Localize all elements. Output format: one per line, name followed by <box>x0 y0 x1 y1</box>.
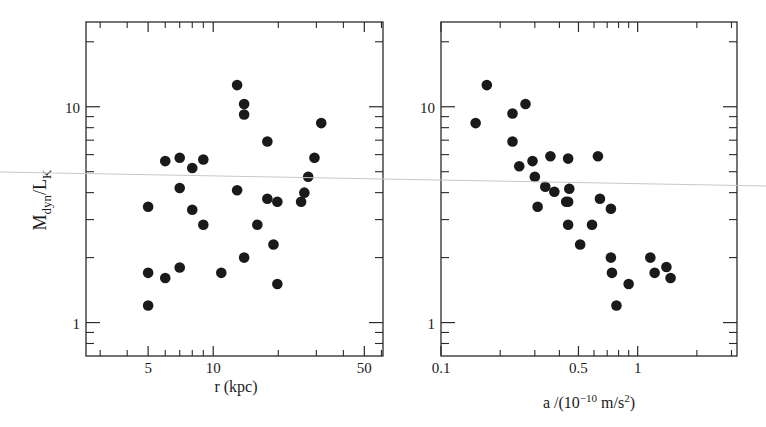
plot-frame <box>441 22 737 356</box>
data-point <box>587 219 598 230</box>
data-point <box>606 252 617 263</box>
data-point <box>216 268 227 279</box>
data-point <box>507 108 518 119</box>
data-point <box>645 252 656 263</box>
y-tick-label: 10 <box>420 100 435 116</box>
data-point <box>262 193 273 204</box>
data-point <box>575 239 586 250</box>
data-point <box>239 109 250 120</box>
y-axis-label: Mdyn/LK <box>30 169 54 231</box>
data-point <box>232 185 243 196</box>
x-tick-label: 0.5 <box>569 360 588 376</box>
data-point <box>232 80 243 91</box>
data-point <box>649 268 660 279</box>
data-point <box>520 99 531 110</box>
data-point <box>160 273 171 284</box>
data-point <box>532 201 543 212</box>
data-point <box>198 219 209 230</box>
data-point <box>198 154 209 165</box>
data-point <box>262 136 273 147</box>
data-point <box>540 181 551 192</box>
data-point <box>252 219 263 230</box>
data-point <box>564 183 575 194</box>
data-point <box>545 151 556 162</box>
data-point <box>309 153 320 164</box>
data-point <box>606 203 617 214</box>
data-point <box>661 262 672 273</box>
figure: 51050110 0.10.51110 Mdyn/LK r (kpc) a /(… <box>0 0 766 427</box>
x-tick-label: 0.1 <box>432 360 451 376</box>
data-point <box>272 279 283 290</box>
x-tick-label: 10 <box>206 360 221 376</box>
data-point <box>303 171 314 182</box>
x-axis-label-left: r (kpc) <box>214 378 257 396</box>
data-point <box>530 171 541 182</box>
data-point <box>527 156 538 167</box>
data-point <box>514 161 525 172</box>
data-point <box>160 156 171 167</box>
data-point <box>507 136 518 147</box>
data-point <box>272 196 283 207</box>
data-point <box>174 183 185 194</box>
data-point <box>595 193 606 204</box>
data-point <box>563 219 574 230</box>
data-point <box>143 300 154 311</box>
data-point <box>623 279 634 290</box>
data-point <box>563 196 574 207</box>
left-panel-r-vs-ml: 51050110 <box>65 22 383 376</box>
data-point <box>143 268 154 279</box>
data-point <box>187 163 198 174</box>
right-panel-a-vs-ml: 0.10.51110 <box>420 22 737 376</box>
data-point <box>593 151 604 162</box>
x-axis-label-right: a /(10−10 m/s2) <box>543 392 635 412</box>
data-point <box>470 118 481 129</box>
data-point <box>665 273 676 284</box>
data-point <box>549 186 560 197</box>
data-point <box>239 99 250 110</box>
x-tick-label: 1 <box>634 360 642 376</box>
data-point <box>268 239 279 250</box>
x-tick-label: 5 <box>144 360 152 376</box>
data-point <box>563 153 574 164</box>
data-point <box>607 268 618 279</box>
data-point <box>316 118 327 129</box>
y-tick-label: 1 <box>73 316 81 332</box>
data-point <box>174 153 185 164</box>
data-point <box>611 300 622 311</box>
data-point <box>187 205 198 216</box>
x-tick-label: 50 <box>357 360 372 376</box>
data-point <box>174 262 185 273</box>
data-point <box>482 80 493 91</box>
y-tick-label: 1 <box>428 316 436 332</box>
data-point <box>299 187 310 198</box>
data-point <box>296 196 307 207</box>
data-point <box>143 201 154 212</box>
data-point <box>239 252 250 263</box>
y-tick-label: 10 <box>65 100 80 116</box>
